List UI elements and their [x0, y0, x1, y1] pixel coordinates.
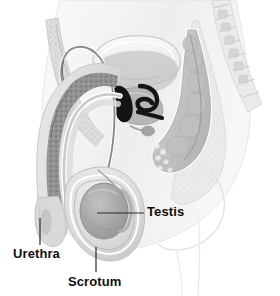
label-testis: Testis [147, 205, 184, 218]
label-scrotum: Scrotum [68, 275, 121, 288]
label-urethra: Urethra [13, 247, 60, 260]
anatomy-figure: Urethra Scrotum Testis [0, 0, 280, 296]
